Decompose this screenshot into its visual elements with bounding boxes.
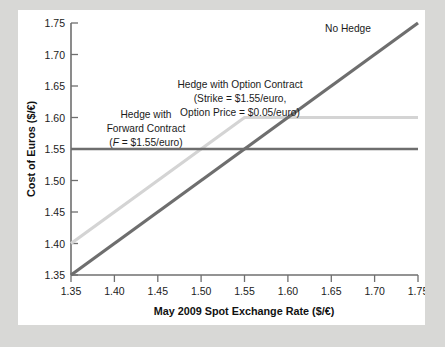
x-tick-label: 1.70: [364, 285, 385, 297]
x-tick-label: 1.60: [278, 285, 299, 297]
annotation-option-line2: (Strike = $1.55/euro,: [194, 93, 287, 104]
x-tick-label: 1.75: [408, 285, 425, 297]
x-axis-title: May 2009 Spot Exchange Rate ($/€): [154, 305, 335, 317]
x-tick-label: 1.65: [321, 285, 342, 297]
x-tick-label: 1.45: [148, 285, 169, 297]
annotation-forward-value: = $1.55/euro): [119, 137, 183, 148]
annotation-option-contract: Hedge with Option Contract (Strike = $1.…: [177, 79, 302, 118]
annotation-forward-line1: Hedge with: [121, 109, 172, 120]
x-tick-label: 1.40: [104, 285, 125, 297]
x-tick-label: 1.50: [191, 285, 212, 297]
y-tick-label: 1.35: [45, 269, 66, 281]
annotation-option-line3: Option Price = $0.05/euro): [180, 107, 300, 118]
annotation-forward-line3: (F = $1.55/euro): [109, 137, 182, 148]
chart-figure: 1.75 1.70 1.65 1.60 1.55 1.50 1.45 1.40 …: [18, 10, 425, 325]
y-tick-label: 1.65: [45, 80, 66, 92]
y-tick-label: 1.40: [45, 238, 66, 250]
y-tick-label: 1.50: [45, 175, 66, 187]
y-tick-label: 1.55: [45, 143, 66, 155]
x-tick-labels: 1.35 1.40 1.45 1.50 1.55 1.60 1.65 1.70 …: [61, 285, 425, 297]
y-tick-label: 1.75: [45, 17, 66, 29]
exchange-rate-hedging-chart: 1.75 1.70 1.65 1.60 1.55 1.50 1.45 1.40 …: [18, 10, 425, 325]
y-tick-labels: 1.75 1.70 1.65 1.60 1.55 1.50 1.45 1.40 …: [45, 17, 66, 281]
y-tick-label: 1.60: [45, 112, 66, 124]
x-tick-label: 1.55: [234, 285, 255, 297]
annotation-no-hedge: No Hedge: [325, 23, 371, 34]
y-tick-label: 1.70: [45, 49, 66, 61]
y-tick-label: 1.45: [45, 206, 66, 218]
annotation-forward-line2: Forward Contract: [107, 123, 186, 134]
annotation-option-line1: Hedge with Option Contract: [177, 79, 302, 90]
x-tick-label: 1.35: [61, 285, 82, 297]
y-axis-title: Cost of Euros ($/€): [25, 101, 37, 197]
